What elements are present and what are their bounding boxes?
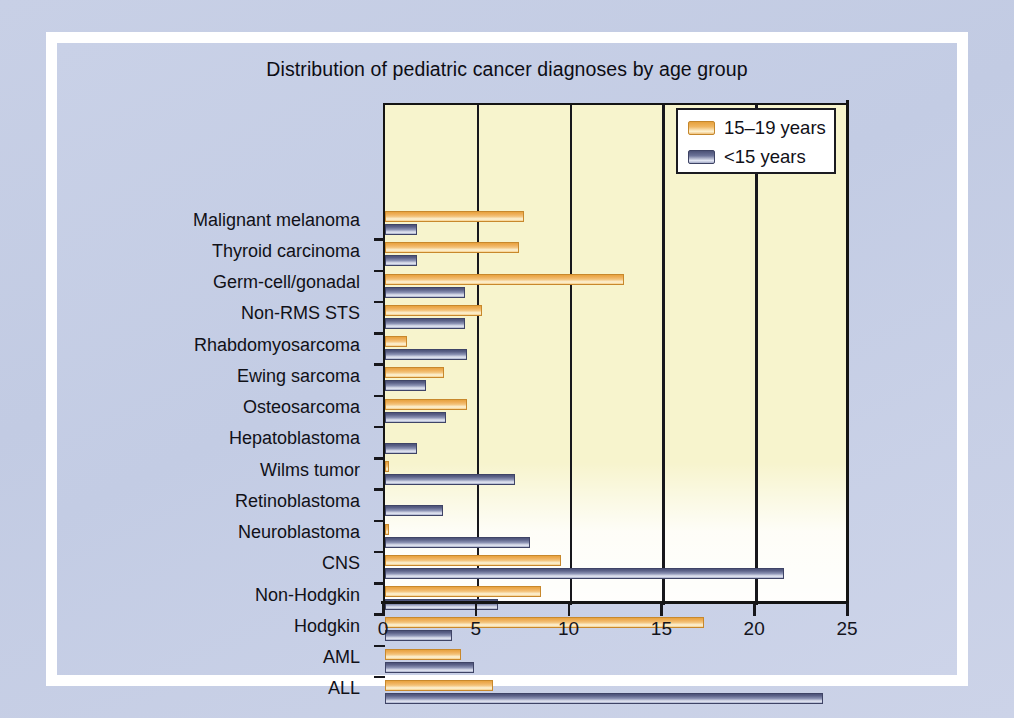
y-axis-label-hepatoblastoma: Hepatoblastoma xyxy=(229,428,360,449)
gridline-10 xyxy=(570,105,573,605)
y-axis-tick xyxy=(374,457,385,460)
bar-under-15-years-0 xyxy=(385,224,417,235)
bar-under-15-years-1 xyxy=(385,255,417,266)
x-axis-tick-label: 0 xyxy=(378,618,389,640)
y-axis-tick xyxy=(374,488,385,491)
bar-under-15-years-4 xyxy=(385,349,467,360)
figure-page: Distribution of pediatric cancer diagnos… xyxy=(0,0,1014,718)
bar-15-19-years-3 xyxy=(385,305,482,316)
x-axis-tick xyxy=(568,603,571,616)
legend-label: <15 years xyxy=(724,146,806,168)
bar-under-15-years-9 xyxy=(385,505,443,516)
y-axis-tick xyxy=(374,582,385,585)
y-axis-tick xyxy=(374,363,385,366)
bar-under-15-years-13 xyxy=(385,630,452,641)
chart-title: Distribution of pediatric cancer diagnos… xyxy=(0,58,1014,81)
x-axis-tick xyxy=(475,603,478,616)
bar-under-15-years-7 xyxy=(385,443,417,454)
y-axis-label-non-hodgkin: Non-Hodgkin xyxy=(255,585,360,606)
y-axis-tick xyxy=(374,238,385,241)
bar-15-19-years-15 xyxy=(385,680,493,691)
bar-under-15-years-10 xyxy=(385,537,530,548)
y-axis-label-germ-cell-gonadal: Germ-cell/gonadal xyxy=(213,272,360,293)
y-axis-label-cns: CNS xyxy=(322,553,360,574)
bar-15-19-years-14 xyxy=(385,649,461,660)
plot-right-border xyxy=(846,100,849,606)
bar-under-15-years-14 xyxy=(385,662,474,673)
bar-15-19-years-0 xyxy=(385,211,524,222)
blue-swatch-icon xyxy=(688,150,715,164)
bar-15-19-years-1 xyxy=(385,242,519,253)
x-axis-tick xyxy=(660,603,663,616)
plot-area xyxy=(383,103,847,603)
bar-15-19-years-6 xyxy=(385,399,467,410)
x-axis-tick-label: 20 xyxy=(744,618,765,640)
y-axis-category-labels: Malignant melanomaThyroid carcinomaGerm-… xyxy=(0,103,374,603)
bar-under-15-years-6 xyxy=(385,412,446,423)
y-axis-tick xyxy=(374,520,385,523)
legend-label: 15–19 years xyxy=(724,117,826,139)
y-axis-label-ewing-sarcoma: Ewing sarcoma xyxy=(237,366,360,387)
bar-15-19-years-10 xyxy=(385,524,389,535)
y-axis-label-aml: AML xyxy=(323,647,360,668)
x-axis-tick-label: 5 xyxy=(471,618,482,640)
bar-15-19-years-11 xyxy=(385,555,561,566)
y-axis-label-osteosarcoma: Osteosarcoma xyxy=(243,397,360,418)
bar-under-15-years-15 xyxy=(385,693,823,704)
gridline-5 xyxy=(477,105,480,605)
y-axis-label-all: ALL xyxy=(328,678,360,699)
bar-15-19-years-2 xyxy=(385,274,624,285)
orange-swatch-icon xyxy=(688,121,715,135)
y-axis-label-non-rms-sts: Non-RMS STS xyxy=(241,303,360,324)
x-axis-tick xyxy=(753,603,756,616)
y-axis-tick xyxy=(374,395,385,398)
y-axis-tick xyxy=(374,301,385,304)
gridline-20 xyxy=(755,105,758,605)
y-axis-label-hodgkin: Hodgkin xyxy=(294,616,360,637)
bar-under-15-years-11 xyxy=(385,568,784,579)
chart-legend: 15–19 years <15 years xyxy=(676,108,836,174)
bar-15-19-years-5 xyxy=(385,367,444,378)
x-axis-tick-label: 15 xyxy=(651,618,672,640)
y-axis-tick xyxy=(374,676,385,679)
gridline-15 xyxy=(662,105,665,605)
legend-item-under-15-years[interactable]: <15 years xyxy=(688,144,806,170)
y-axis-tick xyxy=(374,426,385,429)
bar-under-15-years-2 xyxy=(385,287,465,298)
bar-15-19-years-4 xyxy=(385,336,407,347)
legend-item-15-19-years[interactable]: 15–19 years xyxy=(688,115,826,141)
y-axis-tick xyxy=(374,332,385,335)
y-axis-tick xyxy=(374,270,385,273)
bar-15-19-years-12 xyxy=(385,586,541,597)
y-axis-label-wilms-tumor: Wilms tumor xyxy=(260,460,360,481)
y-axis-tick xyxy=(374,645,385,648)
x-axis-tick-label: 10 xyxy=(558,618,579,640)
bar-under-15-years-5 xyxy=(385,380,426,391)
x-axis-tick xyxy=(846,603,849,616)
y-axis-label-thyroid-carcinoma: Thyroid carcinoma xyxy=(212,241,360,262)
x-axis-tick-label: 25 xyxy=(836,618,857,640)
bar-under-15-years-8 xyxy=(385,474,515,485)
y-axis-label-retinoblastoma: Retinoblastoma xyxy=(235,491,360,512)
y-axis-tick xyxy=(374,551,385,554)
y-axis-label-neuroblastoma: Neuroblastoma xyxy=(238,522,360,543)
bar-15-19-years-8 xyxy=(385,461,389,472)
y-axis-label-rhabdomyosarcoma: Rhabdomyosarcoma xyxy=(194,335,360,356)
bar-under-15-years-3 xyxy=(385,318,465,329)
x-axis-line xyxy=(381,601,849,604)
y-axis-label-malignant-melanoma: Malignant melanoma xyxy=(193,210,360,231)
x-axis-tick xyxy=(382,603,385,616)
